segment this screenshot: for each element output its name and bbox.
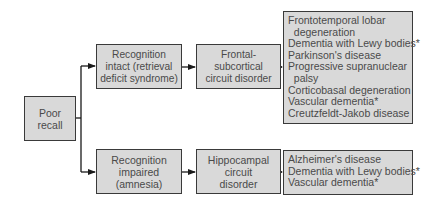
disease-item: Vascular dementia* bbox=[288, 177, 408, 189]
hippocampal-label: Hippocampal circuit disorder bbox=[208, 154, 269, 190]
poor-recall-box: Poor recall bbox=[24, 96, 76, 141]
hippocampal-box: Hippocampal circuit disorder bbox=[196, 149, 281, 194]
recognition-impaired-box: Recognition impaired (amnesia) bbox=[96, 149, 182, 194]
frontal-disease-list: Frontotemporal lobar degeneration Dement… bbox=[283, 11, 413, 124]
hippocampal-disease-list: Alzheimer's disease Dementia with Lewy b… bbox=[283, 150, 413, 195]
recognition-intact-box: Recognition intact (retrieval deficit sy… bbox=[96, 44, 182, 89]
poor-recall-label: Poor recall bbox=[37, 107, 62, 131]
disease-item: Alzheimer's disease bbox=[288, 154, 408, 166]
frontal-subcortical-box: Frontal- subcortical circuit disorder bbox=[196, 44, 281, 89]
recognition-impaired-label: Recognition impaired (amnesia) bbox=[111, 154, 166, 190]
disease-item: Creutzfeldt-Jakob disease bbox=[288, 108, 408, 120]
disease-item: Vascular dementia* bbox=[288, 96, 408, 108]
disease-item: Frontotemporal lobar bbox=[288, 15, 408, 27]
frontal-subcortical-label: Frontal- subcortical circuit disorder bbox=[205, 49, 271, 85]
recognition-intact-label: Recognition intact (retrieval deficit sy… bbox=[100, 49, 178, 85]
disease-item: palsy bbox=[288, 73, 408, 85]
